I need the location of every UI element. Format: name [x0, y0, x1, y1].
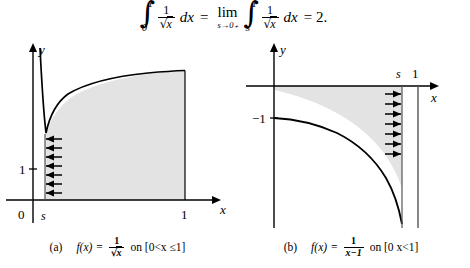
figure-a-plot: y x 0 s 1 1: [0, 38, 235, 238]
integral-upper-limit-1: 1: [148, 0, 154, 9]
figure-b-caption-fx: f(x): [311, 241, 327, 253]
x-tick-label-1-b: 1: [412, 66, 419, 81]
fraction-numerator-2: 1: [265, 4, 275, 17]
figure-b-caption-fraction: 1 x−1: [344, 236, 364, 258]
y-axis-label-b: y: [278, 42, 286, 57]
integral-sign-1: ∫ 1 0: [140, 2, 153, 32]
integral-sign-2: ∫ 1 s: [244, 2, 257, 32]
differential-2: dx: [284, 9, 298, 26]
figure-a-tag: (a): [50, 241, 63, 253]
figure-a-caption-fx: f(x): [76, 241, 92, 253]
fraction-denominator-1: √x: [158, 17, 175, 31]
figure-b: y x −1 s 1 (b) f(x) = 1 x−1 on [0 x<1]: [232, 38, 470, 268]
display-equation: ∫ 1 0 1 √x dx = lim s→0₊ ∫ 1 s 1 √x: [0, 2, 470, 36]
fraction-denominator-2: √x: [262, 17, 279, 31]
limit-subscript: s→0₊: [217, 21, 237, 30]
differential-1: dx: [180, 9, 194, 26]
figure-b-caption: (b) f(x) = 1 x−1 on [0 x<1]: [232, 236, 470, 258]
y-axis-label-a: y: [37, 42, 45, 57]
fraction-numerator-1: 1: [161, 4, 171, 17]
equals-sign-1: =: [200, 9, 208, 26]
figure-b-caption-numerator: 1: [349, 236, 358, 247]
figure-a: y x 0 s 1 1 (a) f(x) = 1 √x on [0<x ≤1]: [0, 38, 235, 268]
limit-operator: lim s→0₊: [217, 5, 237, 30]
y-axis-arrowhead-b: [270, 43, 278, 52]
integral-lower-limit-1: 0: [142, 24, 148, 33]
x-axis-label-b: x: [430, 90, 437, 105]
y-tick-label-neg1-b: −1: [252, 111, 266, 126]
figure-b-tag: (b): [284, 241, 297, 253]
fraction-2: 1 √x: [262, 4, 279, 30]
figure-b-caption-denominator: x−1: [344, 247, 364, 259]
integral-upper-limit-2: 1: [252, 0, 258, 9]
figure-a-caption: (a) f(x) = 1 √x on [0<x ≤1]: [0, 236, 235, 258]
equation-result: = 2.: [304, 9, 327, 26]
figure-b-caption-domain: on [0 x<1]: [370, 241, 419, 253]
shaded-area-a: [45, 71, 185, 201]
x-axis-arrowhead-b: [430, 82, 439, 90]
fraction-1: 1 √x: [158, 4, 175, 30]
figure-a-caption-sqrt-arg: x: [116, 246, 122, 258]
x-axis-label-a: x: [219, 202, 226, 217]
figure-a-caption-fraction: 1 √x: [109, 236, 125, 258]
figure-page: ∫ 1 0 1 √x dx = lim s→0₊ ∫ 1 s 1 √x: [0, 0, 470, 268]
integral-lower-limit-2: s: [246, 24, 251, 33]
figure-b-plot: y x −1 s 1: [232, 38, 470, 238]
sqrt-argument-2: x: [270, 16, 276, 31]
figure-a-caption-domain: on [0<x ≤1]: [130, 241, 185, 253]
x-tick-label-s-a: s: [41, 209, 46, 223]
limit-word: lim: [217, 5, 237, 20]
figure-b-caption-equals: =: [331, 241, 338, 253]
x-tick-label-1-a: 1: [181, 207, 188, 222]
origin-label-a: 0: [18, 207, 25, 222]
figure-a-caption-denominator: √x: [109, 247, 125, 259]
y-axis-arrowhead-a: [29, 43, 37, 52]
figure-a-caption-numerator: 1: [112, 236, 121, 247]
figure-a-caption-equals: =: [96, 241, 103, 253]
sqrt-argument-1: x: [167, 16, 173, 31]
x-tick-label-s-b: s: [396, 67, 401, 81]
y-tick-label-1-a: 1: [19, 162, 26, 177]
